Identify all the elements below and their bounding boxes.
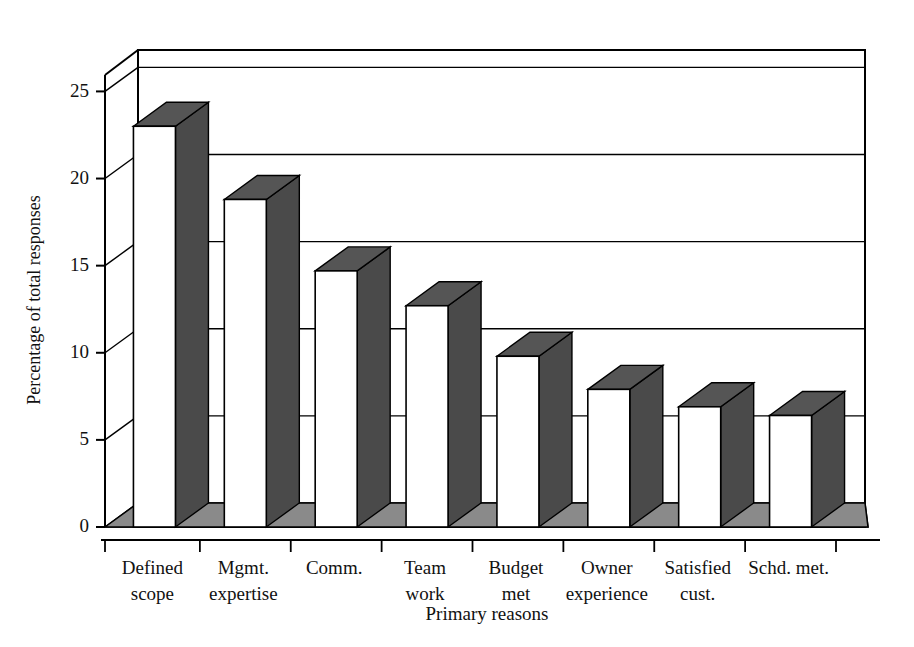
x-tick-label: scope bbox=[131, 583, 174, 604]
bar-side-face bbox=[721, 383, 754, 527]
y-tick-label: 15 bbox=[70, 254, 89, 275]
x-tick-label: Budget bbox=[488, 557, 544, 578]
x-tick-label: Owner bbox=[581, 557, 633, 578]
bar-front-face bbox=[315, 271, 357, 527]
bar bbox=[588, 365, 663, 527]
x-tick-label: Defined bbox=[122, 557, 184, 578]
x-tick-label: met bbox=[502, 583, 531, 604]
bar-front-face bbox=[497, 356, 539, 527]
y-tick-label: 20 bbox=[70, 167, 89, 188]
bar-front-face bbox=[224, 199, 266, 527]
bar-side-face bbox=[357, 247, 390, 527]
y-tick-label: 25 bbox=[70, 80, 89, 101]
bar-front-face bbox=[588, 389, 630, 527]
x-tick-label: experience bbox=[566, 583, 648, 604]
x-tick-label: cust. bbox=[680, 583, 715, 604]
chart-figure: 0510152025 DefinedscopeMgmt.expertiseCom… bbox=[0, 0, 914, 647]
y-tick-label: 5 bbox=[80, 428, 90, 449]
plot-floor bbox=[105, 503, 868, 527]
bar-side-face bbox=[448, 282, 481, 527]
x-tick-label: Schd. met. bbox=[748, 557, 829, 578]
bar-front-face bbox=[770, 415, 812, 527]
x-tick-label: work bbox=[406, 583, 446, 604]
y-tick-label: 10 bbox=[70, 341, 89, 362]
bar-front-face bbox=[133, 126, 175, 527]
bar bbox=[224, 175, 299, 527]
bar bbox=[497, 332, 572, 527]
bar bbox=[406, 282, 481, 527]
bar-side-face bbox=[630, 365, 663, 527]
bar-front-face bbox=[679, 407, 721, 527]
bar bbox=[315, 247, 390, 527]
bar-chart-3d: 0510152025 DefinedscopeMgmt.expertiseCom… bbox=[0, 0, 914, 647]
bar bbox=[133, 102, 208, 527]
x-tick-label: Mgmt. bbox=[218, 557, 269, 578]
y-tick-label: 0 bbox=[80, 515, 90, 536]
x-tick-label: Comm. bbox=[306, 557, 362, 578]
x-tick-label: expertise bbox=[209, 583, 278, 604]
bar-side-face bbox=[175, 102, 208, 527]
bar-side-face bbox=[539, 332, 572, 527]
bar bbox=[770, 391, 845, 527]
x-axis-title: Primary reasons bbox=[426, 603, 549, 624]
bar bbox=[679, 383, 754, 527]
bar-side-face bbox=[266, 175, 299, 527]
y-axis-title: Percentage of total responses bbox=[24, 195, 44, 404]
x-tick-label: Team bbox=[404, 557, 446, 578]
x-tick-label: Satisfied bbox=[664, 557, 731, 578]
bar-front-face bbox=[406, 306, 448, 527]
